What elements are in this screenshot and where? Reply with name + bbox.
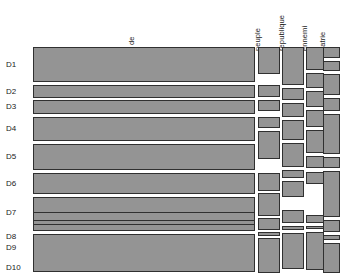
row-label-D7: D7 bbox=[6, 208, 16, 217]
mosaic-plot: depeuplerepubliqueennemipatrie D1D2D3D4D… bbox=[0, 0, 342, 279]
mosaic-cell-peuple-D8[interactable] bbox=[258, 218, 280, 230]
mosaic-cell-patrie-D2[interactable] bbox=[323, 61, 340, 71]
mosaic-cell-de-D2[interactable] bbox=[33, 85, 255, 98]
mosaic-cell-ennemi-D5[interactable] bbox=[306, 130, 324, 153]
mosaic-cell-ennemi-D4[interactable] bbox=[306, 110, 324, 127]
mosaic-cell-de-D4[interactable] bbox=[33, 117, 255, 141]
mosaic-cell-republique-D7[interactable] bbox=[282, 181, 304, 197]
mosaic-cell-peuple-D6[interactable] bbox=[258, 173, 280, 191]
mosaic-cell-de-D3[interactable] bbox=[33, 100, 255, 114]
mosaic-cell-patrie-D5[interactable] bbox=[323, 114, 340, 154]
mosaic-cell-de-D5[interactable] bbox=[33, 144, 255, 170]
mosaic-cell-ennemi-D9[interactable] bbox=[306, 226, 324, 229]
row-label-D6: D6 bbox=[6, 179, 16, 188]
mosaic-cell-republique-D2[interactable] bbox=[282, 88, 304, 100]
row-label-D9: D9 bbox=[6, 243, 16, 252]
mosaic-cell-de-D1[interactable] bbox=[33, 47, 255, 82]
row-label-D4: D4 bbox=[6, 124, 16, 133]
mosaic-cell-ennemi-D6[interactable] bbox=[306, 156, 324, 168]
mosaic-cell-ennemi-D8[interactable] bbox=[306, 215, 324, 223]
mosaic-cell-ennemi-D2[interactable] bbox=[306, 73, 324, 88]
column-label-republique: republique bbox=[277, 15, 286, 51]
mosaic-cell-ennemi-D7[interactable] bbox=[306, 172, 324, 184]
mosaic-cell-republique-D10[interactable] bbox=[282, 233, 304, 269]
mosaic-cell-patrie-D7[interactable] bbox=[323, 171, 340, 217]
mosaic-cell-patrie-D8[interactable] bbox=[323, 220, 340, 232]
row-label-D1: D1 bbox=[6, 60, 16, 69]
mosaic-cell-patrie-D9[interactable] bbox=[323, 235, 340, 240]
row-label-D10: D10 bbox=[6, 263, 21, 272]
row-label-D3: D3 bbox=[6, 102, 16, 111]
mosaic-cell-patrie-D10[interactable] bbox=[323, 243, 340, 273]
mosaic-cell-de-D9[interactable] bbox=[33, 224, 255, 231]
mosaic-cell-peuple-D3[interactable] bbox=[258, 100, 280, 111]
mosaic-cell-peuple-D7[interactable] bbox=[258, 193, 280, 216]
mosaic-cell-peuple-D4[interactable] bbox=[258, 117, 280, 128]
mosaic-cell-peuple-D1[interactable] bbox=[258, 47, 280, 74]
mosaic-cell-republique-D3[interactable] bbox=[282, 103, 304, 117]
mosaic-cell-republique-D5[interactable] bbox=[282, 143, 304, 167]
mosaic-cell-ennemi-D3[interactable] bbox=[306, 91, 324, 107]
column-label-de: de bbox=[127, 36, 136, 45]
mosaic-cell-peuple-D2[interactable] bbox=[258, 85, 280, 97]
mosaic-cell-patrie-D1[interactable] bbox=[323, 47, 340, 58]
row-label-D8: D8 bbox=[6, 232, 16, 241]
mosaic-cell-republique-D8[interactable] bbox=[282, 210, 304, 223]
mosaic-cell-patrie-D4[interactable] bbox=[323, 98, 340, 111]
mosaic-cell-de-D8[interactable] bbox=[33, 212, 255, 221]
mosaic-cell-republique-D4[interactable] bbox=[282, 120, 304, 140]
row-label-D5: D5 bbox=[6, 152, 16, 161]
mosaic-cell-republique-D6[interactable] bbox=[282, 170, 304, 178]
mosaic-cell-ennemi-D10[interactable] bbox=[306, 232, 324, 270]
mosaic-cell-de-D6[interactable] bbox=[33, 173, 255, 194]
mosaic-cell-republique-D9[interactable] bbox=[282, 226, 304, 230]
mosaic-cell-republique-D1[interactable] bbox=[282, 47, 304, 85]
mosaic-cell-patrie-D6[interactable] bbox=[323, 157, 340, 168]
mosaic-cell-peuple-D9[interactable] bbox=[258, 232, 280, 236]
mosaic-cell-patrie-D3[interactable] bbox=[323, 74, 340, 95]
mosaic-cell-de-D10[interactable] bbox=[33, 234, 255, 272]
mosaic-cell-peuple-D10[interactable] bbox=[258, 238, 280, 273]
mosaic-cell-peuple-D5[interactable] bbox=[258, 131, 280, 159]
row-label-D2: D2 bbox=[6, 87, 16, 96]
mosaic-cell-ennemi-D1[interactable] bbox=[306, 47, 324, 70]
